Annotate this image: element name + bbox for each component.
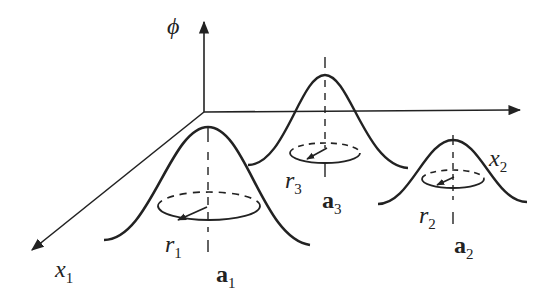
a1-label: a1 [216, 262, 236, 286]
r2-label: r2 [419, 203, 436, 227]
x2-axis [204, 110, 520, 112]
diagram-canvas: ϕ x2 x1 r1 a1 r3 a3 r2 a2 [0, 0, 551, 293]
bump-a1 [104, 127, 310, 252]
r3-label: r3 [285, 168, 302, 192]
x1-axis-label: x1 [55, 257, 73, 281]
x2-axis-label: x2 [489, 146, 507, 170]
a3-label: a3 [322, 188, 342, 212]
axes [32, 22, 520, 250]
x1-axis [32, 112, 204, 250]
r1-label: r1 [165, 232, 182, 256]
phi-axis-label: ϕ [167, 14, 179, 38]
a2-label: a2 [454, 233, 474, 257]
bump-a3 [248, 57, 408, 177]
